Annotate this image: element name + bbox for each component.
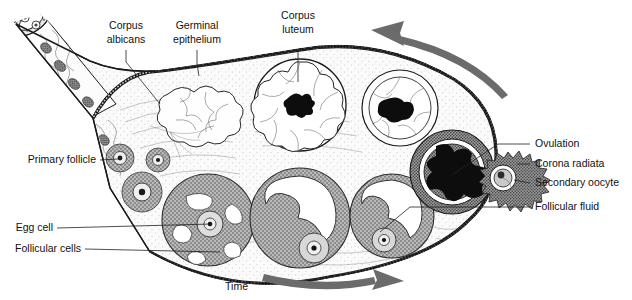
secondary-follicle-center <box>250 168 350 268</box>
label-primary-follicle: Primary follicle <box>28 153 96 165</box>
label-secondary-oocyte: Secondary oocyte <box>535 176 619 188</box>
label-corpus-albicans-line2: albicans <box>107 33 146 45</box>
label-corpus-luteum-line2: luteum <box>282 23 314 35</box>
label-corpus-luteum-line1: Corpus <box>281 9 315 21</box>
label-time: Time <box>225 280 248 292</box>
label-egg-cell: Egg cell <box>16 221 53 233</box>
label-germinal-epithelium-line2: epithelium <box>173 33 221 45</box>
primary-follicle-3 <box>122 172 162 212</box>
label-follicular-cells: Follicular cells <box>15 242 81 254</box>
growing-follicle-center-left <box>162 174 254 266</box>
ovary-diagram-canvas: Corpus albicans Germinal epithelium Corp… <box>0 0 632 300</box>
label-ovulation: Ovulation <box>535 137 580 149</box>
corpus-luteum-2 <box>362 70 438 146</box>
label-germinal-epithelium-line1: Germinal <box>176 19 219 31</box>
label-follicular-fluid: Follicular fluid <box>535 200 599 212</box>
label-corona-radiata: Corona radiata <box>535 157 605 169</box>
label-corpus-albicans-line1: Corpus <box>109 19 143 31</box>
primary-follicle-2 <box>146 148 170 172</box>
primary-follicle-1 <box>106 144 134 172</box>
